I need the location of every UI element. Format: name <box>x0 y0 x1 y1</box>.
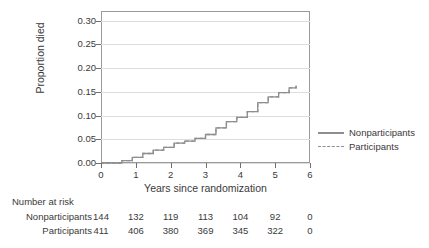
legend-label-participants: Participants <box>349 140 399 154</box>
risk-cell: 411 <box>87 224 115 238</box>
curve-layer <box>101 11 310 163</box>
y-tick-mark <box>96 116 101 117</box>
legend: Nonparticipants Participants <box>318 126 429 154</box>
risk-cell: 322 <box>261 224 289 238</box>
y-tick-mark <box>96 139 101 140</box>
curve-nonparticipants <box>101 86 296 163</box>
curve-participants <box>101 86 296 163</box>
x-tick-mark <box>206 163 207 168</box>
legend-label-nonparticipants: Nonparticipants <box>349 126 415 140</box>
x-tick-label: 2 <box>161 169 181 180</box>
x-tick-mark <box>310 163 311 168</box>
x-tick-mark <box>240 163 241 168</box>
x-tick-label: 1 <box>126 169 146 180</box>
risk-cell: 0 <box>296 224 324 238</box>
y-tick-label: 0.25 <box>78 39 97 49</box>
survival-curve-figure: Proportion died 0.000.050.100.150.200.25… <box>0 0 429 248</box>
risk-cell: 144 <box>87 210 115 224</box>
legend-key-dashed-line <box>318 146 344 147</box>
x-tick-label: 4 <box>230 169 250 180</box>
y-axis-title: Proportion died <box>34 12 46 104</box>
y-tick-mark <box>96 21 101 22</box>
risk-cell: 132 <box>122 210 150 224</box>
legend-item-nonparticipants: Nonparticipants <box>318 126 429 140</box>
risk-table-row: Participants4114063803693453220 <box>0 224 429 238</box>
risk-cell: 406 <box>122 224 150 238</box>
y-tick-label: 0.20 <box>78 63 97 73</box>
x-tick-label: 0 <box>91 169 111 180</box>
x-tick-mark <box>101 163 102 168</box>
x-tick-mark <box>136 163 137 168</box>
y-tick-label: 0.10 <box>78 111 97 121</box>
y-tick-label: 0.05 <box>78 134 97 144</box>
y-tick-mark <box>96 68 101 69</box>
y-tick-mark <box>96 44 101 45</box>
risk-cell: 119 <box>157 210 185 224</box>
risk-cell: 104 <box>226 210 254 224</box>
risk-table-title: Number at risk <box>12 196 74 207</box>
risk-row-label: Nonparticipants <box>0 210 92 224</box>
y-tick-mark <box>96 92 101 93</box>
risk-cell: 0 <box>296 210 324 224</box>
x-axis-title: Years since randomization <box>101 182 310 194</box>
risk-cell: 345 <box>226 224 254 238</box>
risk-row-label: Participants <box>0 224 92 238</box>
legend-key-solid-line <box>318 132 344 134</box>
risk-table-row: Nonparticipants144132119113104920 <box>0 210 429 224</box>
plot-area <box>101 11 310 163</box>
legend-item-participants: Participants <box>318 140 429 154</box>
y-tick-label: 0.00 <box>78 158 97 168</box>
y-tick-label: 0.15 <box>78 87 97 97</box>
x-tick-mark <box>275 163 276 168</box>
risk-cell: 369 <box>192 224 220 238</box>
risk-cell: 92 <box>261 210 289 224</box>
y-tick-label: 0.30 <box>78 16 97 26</box>
x-tick-mark <box>171 163 172 168</box>
x-tick-label: 6 <box>300 169 320 180</box>
y-tick-mark <box>96 163 101 164</box>
x-tick-label: 3 <box>196 169 216 180</box>
x-tick-label: 5 <box>265 169 285 180</box>
risk-cell: 380 <box>157 224 185 238</box>
risk-cell: 113 <box>192 210 220 224</box>
